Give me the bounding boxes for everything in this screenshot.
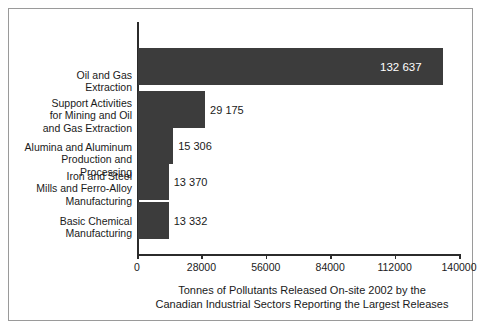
- category-label: Basic Chemical Manufacturing: [14, 215, 132, 240]
- bar: [138, 127, 173, 164]
- category-label-line: Extraction: [85, 81, 132, 93]
- category-label: Iron and Steel Mills and Ferro-Alloy Man…: [14, 170, 132, 207]
- x-tick: [459, 254, 461, 259]
- caption-line: Tonnes of Pollutants Released On-site 20…: [137, 283, 467, 297]
- bar: [138, 91, 205, 128]
- x-tick-label: 84000: [316, 261, 345, 273]
- category-label-line: Oil and Gas: [77, 69, 132, 81]
- category-label-line: Mills and Ferro-Alloy: [36, 182, 132, 194]
- bar-value-label: 13 370: [174, 176, 208, 188]
- category-label-line: Support Activities: [51, 97, 132, 109]
- bar-value-label: 13 332: [174, 215, 208, 227]
- chart-caption: Tonnes of Pollutants Released On-site 20…: [137, 283, 467, 311]
- x-axis-line: [137, 254, 459, 256]
- x-tick-label: 56000: [251, 261, 280, 273]
- bar-value-label: 15 306: [178, 140, 212, 152]
- bar: [138, 163, 169, 200]
- bar: [138, 202, 169, 239]
- x-tick-label: 0: [134, 261, 140, 273]
- x-tick-label: 140000: [441, 261, 476, 273]
- category-label-line: Manufacturing: [65, 195, 132, 207]
- category-label-line: Alumina and Aluminum: [25, 141, 132, 153]
- x-tick: [395, 254, 397, 259]
- category-label-line: for Mining and Oil: [50, 109, 132, 121]
- x-tick: [266, 254, 268, 259]
- category-label-line: and Gas Extraction: [43, 122, 132, 134]
- caption-line: Canadian Industrial Sectors Reporting th…: [137, 297, 467, 311]
- bar-value-label: 29 175: [210, 104, 244, 116]
- category-axis-labels: Oil and Gas Extraction Support Activitie…: [14, 22, 132, 254]
- bar-value-label: 132 637: [380, 61, 422, 73]
- x-tick-label: 28000: [187, 261, 216, 273]
- category-label-line: Manufacturing: [65, 227, 132, 239]
- category-label-line: Iron and Steel: [67, 170, 132, 182]
- category-label: Oil and Gas Extraction: [14, 69, 132, 94]
- x-tick: [201, 254, 203, 259]
- x-tick: [137, 254, 139, 259]
- x-tick-label: 112000: [377, 261, 411, 273]
- plot-area: 132 63729 17515 30613 37013 332 02800056…: [137, 22, 459, 254]
- category-label-line: Basic Chemical: [60, 215, 132, 227]
- chart-figure: Oil and Gas Extraction Support Activitie…: [0, 0, 481, 329]
- category-label: Support Activities for Mining and Oil an…: [14, 97, 132, 134]
- x-tick: [330, 254, 332, 259]
